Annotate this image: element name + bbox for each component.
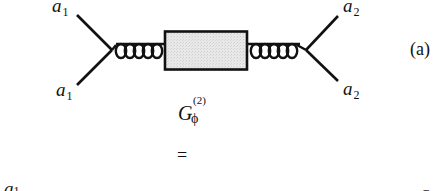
leg-bottom-right (306, 50, 338, 81)
gluon-propagator-right (247, 44, 306, 58)
two-point-blob (165, 32, 247, 70)
label-top-right: a2 (343, 0, 360, 18)
leg-top-left (77, 15, 112, 50)
label-top-left: a1 (52, 0, 69, 18)
equals-sign: = (177, 146, 187, 164)
next-row-label-right: a (420, 183, 430, 191)
caption-green-function: G (2) ϕ (178, 103, 192, 123)
panel-label: (a) (410, 40, 430, 58)
leg-top-right (306, 16, 338, 50)
caption-superscript: (2) (193, 95, 206, 106)
leg-bottom-left (77, 50, 112, 85)
next-row-label-left: a1 (4, 179, 20, 191)
gluon-propagator-left (112, 44, 164, 58)
caption-subscript: ϕ (191, 112, 198, 126)
label-bottom-left: a1 (56, 80, 73, 102)
label-bottom-right: a2 (343, 79, 360, 101)
